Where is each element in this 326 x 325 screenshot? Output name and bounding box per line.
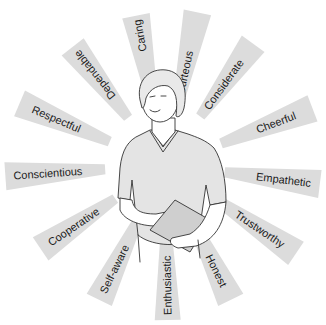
ray-dependable: Dependable <box>62 38 139 126</box>
illustration-canvas: Caring Courteous Considerate Cheerful Em… <box>0 0 326 325</box>
ray-cooperative: Cooperative <box>33 187 123 261</box>
ray-respectful: Respectful <box>14 90 115 154</box>
trait-burst-illustration: Caring Courteous Considerate Cheerful Em… <box>0 0 326 325</box>
ray-conscientious: Conscientious <box>4 155 106 190</box>
ray-empathetic: Empathetic <box>223 158 322 197</box>
ray-cheerful: Cheerful <box>216 95 318 156</box>
trait-label: Enthusiastic <box>161 255 174 315</box>
trait-label: Considerate <box>201 57 246 112</box>
